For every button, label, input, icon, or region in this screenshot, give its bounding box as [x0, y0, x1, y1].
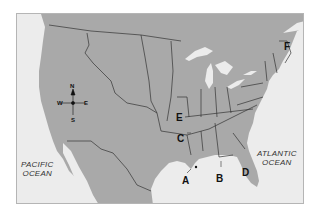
map-frame: N W E S PACIFIC OCEAN ATLANTIC OCEAN A B… [16, 13, 304, 204]
label-e: E [176, 113, 183, 123]
atlantic-line1: ATLANTIC [257, 149, 297, 158]
label-f: F [284, 42, 290, 52]
compass-east: E [84, 100, 88, 106]
compass-south: S [71, 117, 75, 123]
atlantic-line2: OCEAN [257, 158, 297, 167]
location-dot [195, 166, 197, 168]
pacific-ocean-label: PACIFIC OCEAN [21, 160, 53, 178]
label-b: B [216, 174, 223, 184]
label-a: A [182, 176, 189, 186]
compass-west: W [57, 100, 63, 106]
label-c: C [177, 134, 184, 144]
pacific-line2: OCEAN [21, 169, 53, 178]
pacific-line1: PACIFIC [21, 160, 53, 169]
atlantic-ocean-label: ATLANTIC OCEAN [257, 149, 297, 167]
compass-north: N [70, 83, 74, 89]
label-d: D [242, 168, 249, 178]
us-map [17, 14, 304, 204]
